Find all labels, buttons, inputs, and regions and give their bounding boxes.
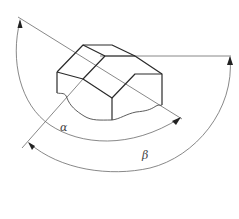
alpha-label: α xyxy=(60,122,67,133)
beta-arc xyxy=(29,57,230,172)
alpha-arrowhead-top xyxy=(18,19,23,28)
alpha-arrowhead-right xyxy=(172,117,181,125)
alpha-arc xyxy=(16,21,180,141)
beta-arrowhead-right xyxy=(227,56,233,65)
beta-label: β xyxy=(142,150,148,161)
angle-diagram xyxy=(0,0,239,219)
beta-arrowhead-left xyxy=(28,142,35,150)
slanted-reference-line xyxy=(18,17,182,119)
diagonal-reference-line xyxy=(22,79,83,148)
